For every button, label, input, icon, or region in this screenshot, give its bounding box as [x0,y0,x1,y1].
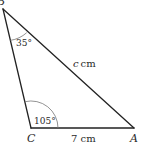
triangle-edges [3,9,134,128]
side-bc [3,9,31,128]
angle-label-b: 35° [16,38,32,48]
vertex-label-c: C [27,132,36,145]
side-label-ba-variable: c [73,58,79,69]
side-label-ba: ccm [73,58,96,69]
vertex-label-b: B [0,0,5,8]
angle-label-c: 105° [34,116,56,126]
side-label-ba-unit: cm [81,58,97,69]
side-label-ca: 7 cm [71,133,96,144]
side-ba [3,9,134,128]
vertex-label-a: A [129,132,138,145]
triangle-diagram: B C A 35° 105° ccm 7 cm [0,0,144,147]
